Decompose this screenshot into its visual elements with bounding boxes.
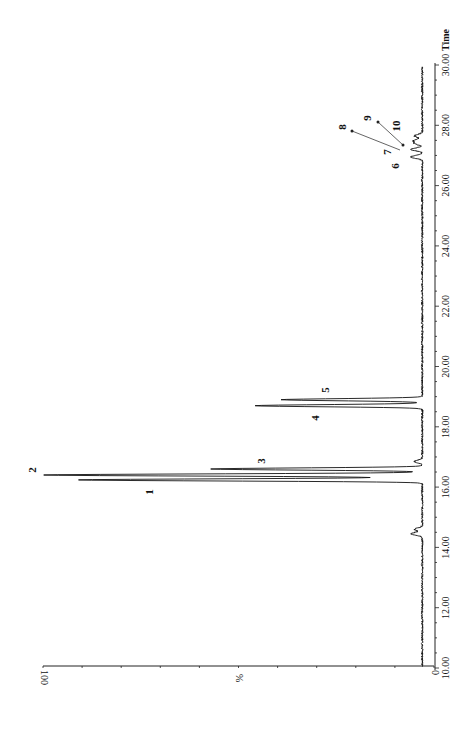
- peak-label-9: 9: [361, 115, 373, 121]
- time-tick-label: 12.00: [440, 596, 451, 619]
- time-tick-label: 30.00: [440, 54, 451, 77]
- time-tick-label: 20.00: [440, 355, 451, 378]
- time-tick-label: 24.00: [440, 235, 451, 258]
- peak-label-7: 7: [381, 149, 393, 155]
- chromatogram-trace: [44, 67, 424, 667]
- time-tick-label: 26.00: [440, 174, 451, 197]
- intensity-max-label: 100: [39, 670, 50, 685]
- peak-9-leader-dot: [377, 121, 380, 124]
- time-tick-label: 22.00: [440, 295, 451, 318]
- peak-label-1: 1: [143, 489, 155, 495]
- peak-label-3: 3: [255, 458, 267, 464]
- time-tick-label: 14.00: [440, 536, 451, 559]
- peak-label-2: 2: [26, 467, 38, 473]
- chromatogram-chart: 10.0012.0014.0016.0018.0020.0022.0024.00…: [0, 0, 476, 730]
- intensity-axis-title: %: [234, 674, 245, 682]
- peak-label-4: 4: [309, 415, 321, 421]
- time-tick-label: 10.00: [440, 657, 451, 680]
- peak-8-leader-line: [352, 131, 400, 150]
- peak-10-leader-dot: [402, 144, 405, 147]
- time-axis-title: Time: [440, 28, 451, 51]
- time-tick-label: 28.00: [440, 114, 451, 137]
- peak-label-6: 6: [389, 163, 401, 169]
- time-tick-label: 16.00: [440, 476, 451, 499]
- peak-label-10: 10: [390, 120, 402, 132]
- peak-8-leader-dot: [351, 130, 354, 133]
- peak-label-5: 5: [319, 387, 331, 393]
- peak-label-8: 8: [336, 124, 348, 130]
- time-tick-label: 18.00: [440, 416, 451, 439]
- intensity-min-label: 0: [430, 670, 441, 675]
